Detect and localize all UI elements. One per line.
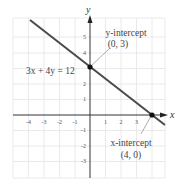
x-intercept-leader xyxy=(141,116,151,134)
svg-text:-1: -1 xyxy=(81,127,86,133)
y-axis xyxy=(88,15,93,178)
y-axis-arrow-icon xyxy=(88,15,93,23)
svg-text:1: 1 xyxy=(104,119,107,125)
svg-text:-2: -2 xyxy=(81,143,86,149)
svg-text:4: 4 xyxy=(83,50,86,56)
svg-text:-1: -1 xyxy=(73,119,78,125)
x-axis-arrow-icon xyxy=(160,113,168,118)
svg-text:-2: -2 xyxy=(57,119,62,125)
y-intercept-leader xyxy=(91,48,110,66)
y-tick-labels: 5 4 2 1 -1 -2 -3 xyxy=(81,34,86,164)
svg-text:2: 2 xyxy=(120,119,123,125)
equation-label: 3x + 4y = 12 xyxy=(26,66,75,76)
y-intercept-title: y-intercept xyxy=(105,28,147,38)
svg-text:2: 2 xyxy=(83,81,86,87)
y-intercept-point xyxy=(87,64,92,69)
svg-text:1: 1 xyxy=(83,96,86,102)
x-intercept-coords: (4, 0) xyxy=(121,150,142,161)
y-axis-label: y xyxy=(85,4,91,15)
x-intercept-point xyxy=(149,112,154,117)
x-axis-label: x xyxy=(169,109,175,120)
grid xyxy=(13,18,165,178)
svg-text:-3: -3 xyxy=(81,158,86,164)
x-tick-labels: -4 -3 -2 -1 1 2 3 xyxy=(26,119,138,125)
graph: x y -4 -3 -2 -1 1 2 3 5 4 2 1 -1 -2 -3 3… xyxy=(0,0,185,189)
svg-text:-4: -4 xyxy=(26,119,31,125)
svg-text:-3: -3 xyxy=(42,119,47,125)
svg-text:3: 3 xyxy=(135,119,138,125)
svg-text:5: 5 xyxy=(83,34,86,40)
y-intercept-coords: (0, 3) xyxy=(108,39,129,50)
x-intercept-title: x-intercept xyxy=(110,138,152,148)
